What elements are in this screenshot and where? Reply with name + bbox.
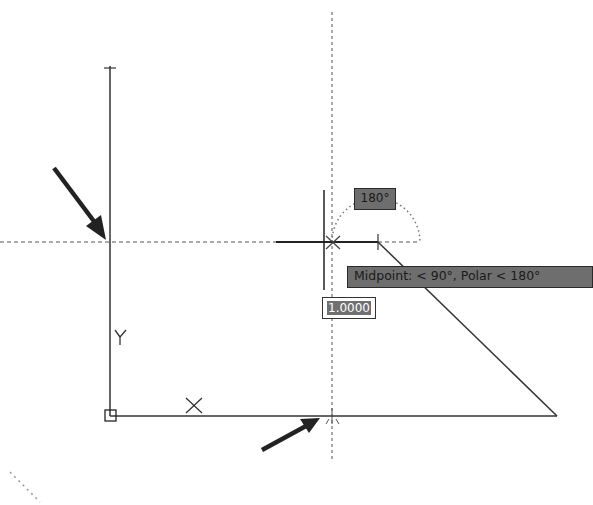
- annotation-arrow-upper: [54, 168, 106, 240]
- polar-tracking-tooltip: Midpoint: < 90°, Polar < 180°: [347, 266, 593, 288]
- angle-tooltip-text: 180°: [361, 191, 390, 205]
- ucs-y-icon: [115, 330, 126, 345]
- annotation-arrow-lower: [262, 418, 320, 450]
- construction-line-diagonal: [10, 472, 40, 502]
- ucs-x-icon: [186, 398, 202, 413]
- dynamic-input-field[interactable]: 1.0000: [322, 297, 376, 319]
- dynamic-input-value[interactable]: 1.0000: [327, 301, 371, 315]
- angle-tooltip: 180°: [354, 188, 396, 210]
- polar-tracking-text: Midpoint: < 90°, Polar < 180°: [354, 268, 540, 283]
